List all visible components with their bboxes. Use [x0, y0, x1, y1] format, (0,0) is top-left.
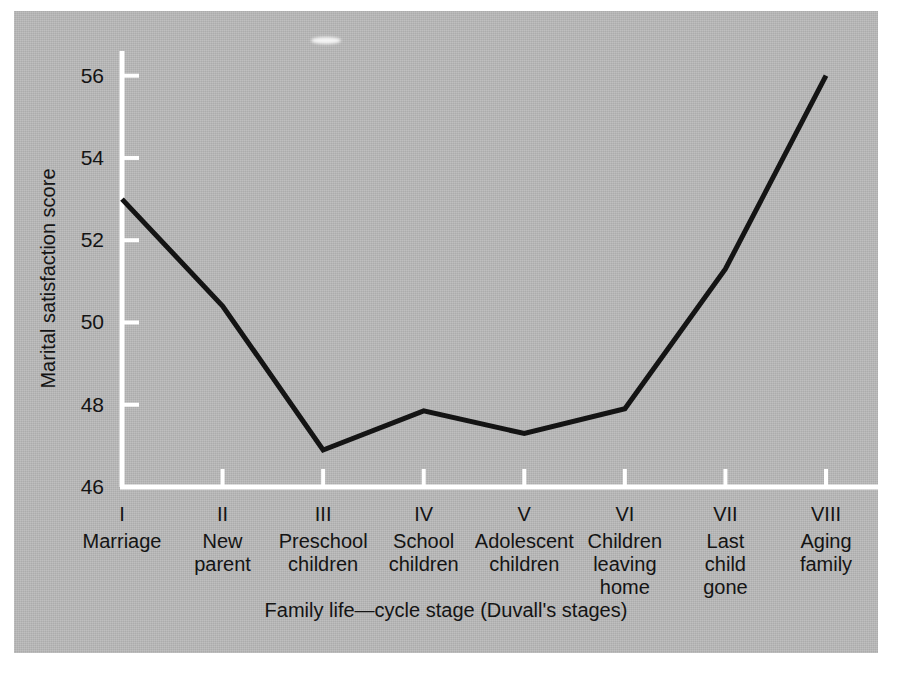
stage-name-line: Children: [588, 530, 662, 553]
x-tick-label-stage-viii: VIIIAgingfamily: [800, 503, 852, 576]
stage-name-line: home: [588, 576, 662, 599]
x-tick-label-stage-i: IMarriage: [83, 503, 162, 553]
data-line-series-marital-satisfaction: [122, 76, 826, 450]
y-tick-marks: [122, 76, 139, 487]
stage-name-line: leaving: [588, 553, 662, 576]
y-tick-label: 56: [58, 65, 104, 87]
x-tick-label-stage-v: VAdolescentchildren: [475, 503, 574, 576]
stage-name-line: parent: [194, 553, 251, 576]
stage-name-line: Last: [703, 530, 748, 553]
figure-root: Marital satisfaction score 464850525456 …: [0, 0, 901, 677]
stage-roman-numeral: VII: [703, 503, 748, 526]
x-axis-title: Family life—cycle stage (Duvall's stages…: [14, 599, 878, 622]
axis-lines: [120, 51, 878, 487]
stage-name-line: children: [475, 553, 574, 576]
x-tick-label-stage-iv: IVSchoolchildren: [389, 503, 459, 576]
x-tick-label-stage-ii: IINewparent: [194, 503, 251, 576]
stage-roman-numeral: IV: [389, 503, 459, 526]
stage-name-line: Preschool: [279, 530, 368, 553]
x-tick-marks: [122, 469, 826, 487]
y-tick-label: 46: [58, 476, 104, 498]
stage-roman-numeral: VI: [588, 503, 662, 526]
stage-name-line: Marriage: [83, 530, 162, 553]
stage-roman-numeral: V: [475, 503, 574, 526]
y-tick-label: 48: [58, 394, 104, 416]
stage-name-line: children: [389, 553, 459, 576]
stage-name-line: family: [800, 553, 852, 576]
stage-roman-numeral: III: [279, 503, 368, 526]
stage-name-line: children: [279, 553, 368, 576]
y-axis-title: Marital satisfaction score: [37, 159, 60, 399]
stage-roman-numeral: II: [194, 503, 251, 526]
stage-name-line: child: [703, 553, 748, 576]
chart-panel: Marital satisfaction score 464850525456 …: [14, 11, 878, 653]
stage-name-line: Aging: [800, 530, 852, 553]
y-tick-label: 50: [58, 312, 104, 334]
x-tick-label-stage-iii: IIIPreschoolchildren: [279, 503, 368, 576]
stage-name-line: New: [194, 530, 251, 553]
x-tick-label-stage-vii: VIILastchildgone: [703, 503, 748, 599]
stage-name-line: Adolescent: [475, 530, 574, 553]
stage-roman-numeral: I: [83, 503, 162, 526]
stage-roman-numeral: VIII: [800, 503, 852, 526]
y-tick-label: 52: [58, 229, 104, 251]
y-tick-label: 54: [58, 147, 104, 169]
stage-name-line: School: [389, 530, 459, 553]
stage-name-line: gone: [703, 576, 748, 599]
x-tick-label-stage-vi: VIChildrenleavinghome: [588, 503, 662, 599]
